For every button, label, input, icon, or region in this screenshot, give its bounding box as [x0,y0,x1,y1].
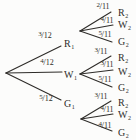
branch-line-W1 [6,72,62,73]
probability-label-W1-W2-1: 3/11 [100,59,113,70]
probability-label-W1: 4/12 [40,57,54,68]
probability-label-G1: 5/12 [39,93,53,104]
outcome-label-W1-W2-1: W2 [118,66,131,78]
outcome-label-R1-R2-0: R2 [118,7,128,19]
outcome-label-G1-G2-2: G2 [118,127,129,139]
outcome-label-G1: G1 [64,98,75,110]
probability-label-G1-R2-0: 3/11 [94,91,107,102]
probability-tree-diagram: 3/12R14/12W15/12G12/11R24/11W25/11G23/11… [0,0,136,140]
outcome-label-R1: R1 [64,38,74,50]
probability-label-G1-G2-2: 4/11 [98,120,111,131]
probability-label-R1: 3/12 [38,30,52,41]
outcome-label-W1-R2-0: R2 [118,52,128,64]
outcome-label-G1-W2-1: W2 [118,109,131,121]
probability-label-R1-R2-0: 2/11 [96,1,109,12]
probability-label-R1-W2-1: 4/11 [100,15,113,26]
probability-label-G1-W2-1: 4/11 [100,104,113,115]
outcome-label-R1-W2-1: W2 [118,19,131,31]
outcome-label-W1: W1 [64,69,77,81]
probability-label-W1-R2-0: 3/11 [94,46,107,57]
tree-svg: 3/12R14/12W15/12G12/11R24/11W25/11G23/11… [0,0,136,140]
outcome-label-W1-G2-2: G2 [118,82,129,94]
outcome-label-R1-G2-2: G2 [118,36,129,48]
outcome-label-G1-R2-0: R2 [118,97,128,109]
